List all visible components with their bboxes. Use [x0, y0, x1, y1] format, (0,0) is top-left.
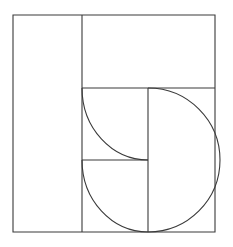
geometric-figure-canvas — [0, 0, 233, 247]
figure-background — [0, 0, 233, 247]
